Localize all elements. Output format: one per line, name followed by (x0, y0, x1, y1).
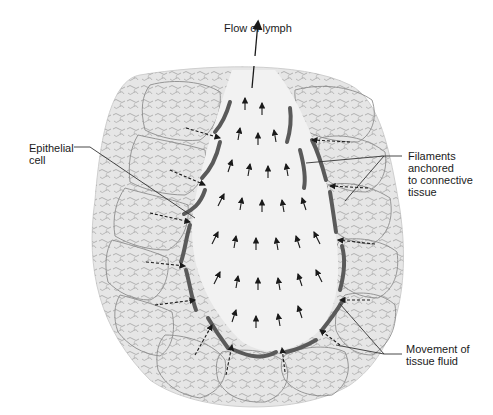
flow-of-lymph-label: Flow of lymph (224, 22, 292, 34)
lymph-capillary-diagram: Flow of lymph Epithelial cell Filaments … (0, 0, 493, 415)
movement-of-tissue-fluid-label: Movement of tissue fluid (406, 343, 470, 367)
filaments-anchored-label: Filaments anchored to connective tissue (408, 150, 473, 198)
epithelial-cell-label: Epithelial cell (29, 142, 74, 166)
